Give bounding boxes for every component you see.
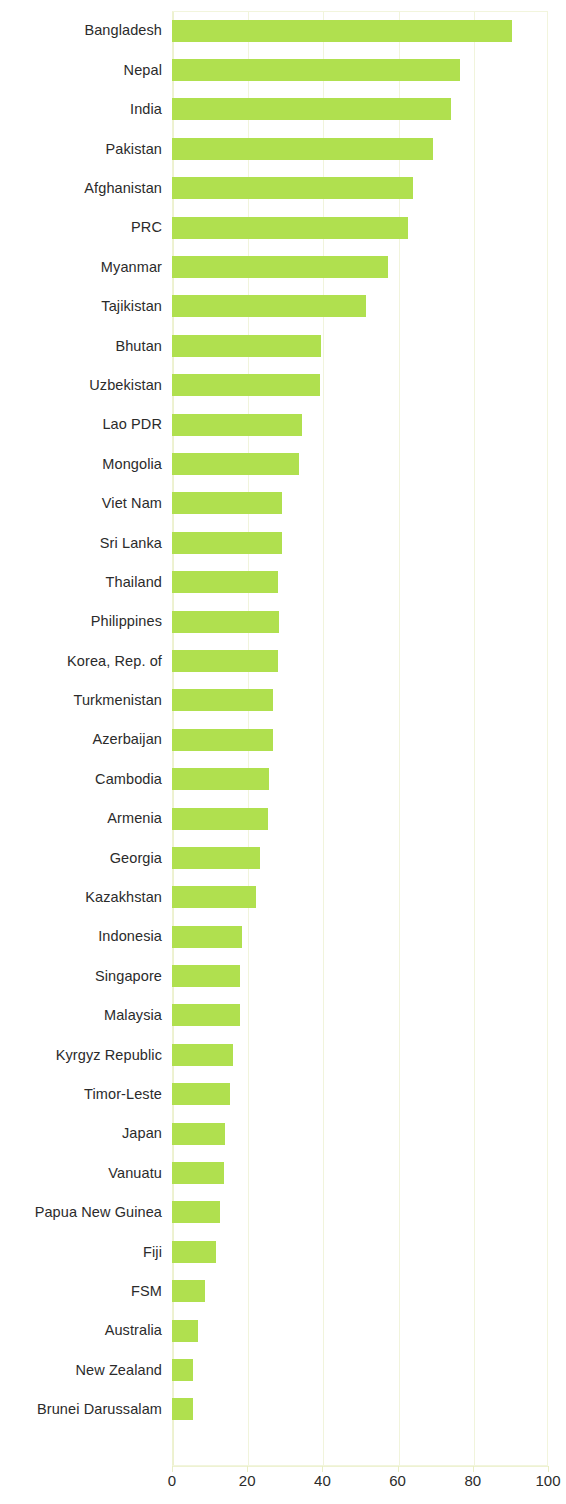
bar[interactable]: [172, 926, 242, 948]
bar[interactable]: [172, 374, 320, 396]
bar-row: Japan: [0, 1114, 566, 1153]
category-label: Indonesia: [0, 929, 162, 944]
bar[interactable]: [172, 217, 408, 239]
bar-track: [172, 247, 548, 286]
bar-row: Kyrgyz Republic: [0, 1035, 566, 1074]
bar[interactable]: [172, 650, 278, 672]
bar-row: FSM: [0, 1272, 566, 1311]
category-label: Cambodia: [0, 772, 162, 787]
x-tick-mark: [473, 1466, 474, 1472]
bar-row: Korea, Rep. of: [0, 641, 566, 680]
bar[interactable]: [172, 847, 260, 869]
category-label: Kazakhstan: [0, 890, 162, 905]
bar[interactable]: [172, 689, 273, 711]
bar[interactable]: [172, 965, 240, 987]
bar-row: Lao PDR: [0, 405, 566, 444]
bar-row: Myanmar: [0, 247, 566, 286]
category-label: Turkmenistan: [0, 693, 162, 708]
bar-track: [172, 444, 548, 483]
bar[interactable]: [172, 808, 268, 830]
bar[interactable]: [172, 20, 512, 42]
bar[interactable]: [172, 571, 278, 593]
bar-track: [172, 681, 548, 720]
bar[interactable]: [172, 1359, 193, 1381]
bar-row: Nepal: [0, 50, 566, 89]
category-label: Timor-Leste: [0, 1087, 162, 1102]
bar[interactable]: [172, 886, 256, 908]
bar-track: [172, 11, 548, 50]
bar-row: Fiji: [0, 1232, 566, 1271]
bar[interactable]: [172, 1241, 216, 1263]
bar-row: Bangladesh: [0, 11, 566, 50]
bar[interactable]: [172, 256, 388, 278]
bar[interactable]: [172, 1320, 198, 1342]
bar-row: Philippines: [0, 602, 566, 641]
bar[interactable]: [172, 729, 273, 751]
bar-track: [172, 641, 548, 680]
bar[interactable]: [172, 1083, 230, 1105]
bar[interactable]: [172, 59, 460, 81]
x-tick-label: 0: [168, 1473, 176, 1488]
bar[interactable]: [172, 98, 451, 120]
bar-row: PRC: [0, 208, 566, 247]
bar[interactable]: [172, 335, 321, 357]
bar[interactable]: [172, 1044, 233, 1066]
bar[interactable]: [172, 1201, 220, 1223]
category-label: Japan: [0, 1126, 162, 1141]
bar-row: India: [0, 90, 566, 129]
bar-track: [172, 1272, 548, 1311]
bar-rows: BangladeshNepalIndiaPakistanAfghanistanP…: [0, 11, 566, 1429]
category-label: PRC: [0, 220, 162, 235]
bar-track: [172, 720, 548, 759]
bar[interactable]: [172, 138, 433, 160]
bar[interactable]: [172, 177, 413, 199]
bar-track: [172, 208, 548, 247]
bar[interactable]: [172, 1280, 205, 1302]
bar-row: Australia: [0, 1311, 566, 1350]
category-label: Thailand: [0, 575, 162, 590]
bar-row: Thailand: [0, 562, 566, 601]
category-label: Georgia: [0, 851, 162, 866]
x-tick-mark: [172, 1466, 173, 1472]
bar-track: [172, 129, 548, 168]
bar[interactable]: [172, 492, 282, 514]
bar[interactable]: [172, 1162, 224, 1184]
category-label: FSM: [0, 1284, 162, 1299]
bar[interactable]: [172, 414, 302, 436]
bar[interactable]: [172, 453, 299, 475]
bar-row: Pakistan: [0, 129, 566, 168]
category-label: Armenia: [0, 811, 162, 826]
bar[interactable]: [172, 768, 269, 790]
bar[interactable]: [172, 1004, 240, 1026]
category-label: Vanuatu: [0, 1166, 162, 1181]
bar-track: [172, 562, 548, 601]
bar-row: Sri Lanka: [0, 523, 566, 562]
bar-row: Afghanistan: [0, 169, 566, 208]
bar-track: [172, 996, 548, 1035]
category-label: Malaysia: [0, 1008, 162, 1023]
bar-track: [172, 523, 548, 562]
x-tick-label: 20: [239, 1473, 256, 1488]
category-label: Sri Lanka: [0, 536, 162, 551]
bar[interactable]: [172, 532, 282, 554]
category-label: Pakistan: [0, 142, 162, 157]
category-label: Afghanistan: [0, 181, 162, 196]
category-label: Viet Nam: [0, 496, 162, 511]
bar-track: [172, 799, 548, 838]
x-tick-mark: [548, 1466, 549, 1472]
category-label: Papua New Guinea: [0, 1205, 162, 1220]
category-label: Bhutan: [0, 339, 162, 354]
x-tick-label: 100: [535, 1473, 560, 1488]
bar[interactable]: [172, 611, 279, 633]
bar-track: [172, 759, 548, 798]
bar[interactable]: [172, 1123, 225, 1145]
x-tick-mark: [247, 1466, 248, 1472]
bar[interactable]: [172, 1398, 193, 1420]
bar-row: Papua New Guinea: [0, 1193, 566, 1232]
bar-track: [172, 1390, 548, 1429]
bar[interactable]: [172, 295, 366, 317]
category-label: Lao PDR: [0, 417, 162, 432]
bar-track: [172, 917, 548, 956]
bar-row: Malaysia: [0, 996, 566, 1035]
bar-row: Bhutan: [0, 326, 566, 365]
